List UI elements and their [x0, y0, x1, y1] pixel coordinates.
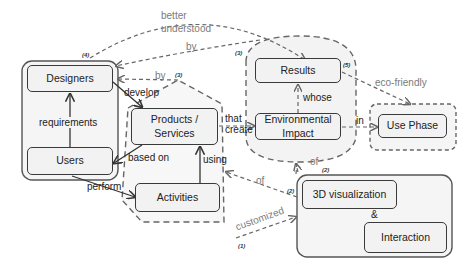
node-3d-visualization: 3D visualization — [302, 180, 397, 209]
edge-label-create: create — [225, 124, 253, 135]
node-use-phase: Use Phase — [378, 114, 447, 138]
edge-label-by-top: by — [186, 41, 197, 52]
edge-label-better: better — [161, 10, 187, 21]
edge-label-eco-friendly: eco-friendly — [375, 77, 427, 88]
edge-label-whose: whose — [303, 92, 332, 103]
edge-label-of-left: of — [256, 175, 264, 186]
node-interaction: Interaction — [364, 222, 447, 253]
marker-2-top: (2) — [322, 167, 329, 173]
marker-4: (4) — [82, 52, 89, 58]
node-activities: Activities — [135, 183, 220, 212]
edge-label-based-on: based on — [128, 152, 169, 163]
node-products-services: Products / Services — [131, 108, 218, 145]
node-designers: Designers — [27, 65, 113, 92]
node-environmental-impact: Environmental Impact — [255, 113, 341, 140]
node-results: Results — [255, 58, 341, 83]
edge-label-that: that — [225, 113, 242, 124]
marker-5: (5) — [343, 62, 350, 68]
marker-3-top: (3) — [235, 50, 242, 56]
impact-group — [246, 36, 356, 162]
node-users: Users — [27, 147, 113, 175]
edge-label-understood: understood — [161, 23, 211, 34]
edge-label-of-right: of — [310, 156, 318, 167]
marker-1: (1) — [238, 243, 245, 249]
marker-2-left: (2) — [287, 188, 294, 194]
edge-label-develop: develop — [124, 87, 159, 98]
edge-label-perform: perform — [87, 181, 121, 192]
ampersand-label: & — [371, 209, 378, 220]
edge-label-requirements: requirements — [39, 117, 97, 128]
edge-label-in: in — [356, 115, 364, 126]
marker-3-mid: (3) — [175, 72, 182, 78]
edge-label-using: using — [203, 154, 227, 165]
edge-label-by-mid: by — [155, 70, 166, 81]
